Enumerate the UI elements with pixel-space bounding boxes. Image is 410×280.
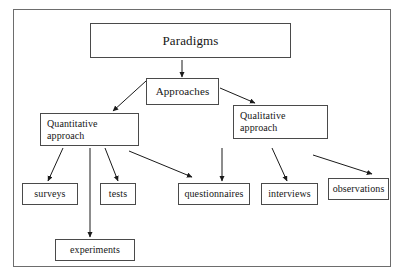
node-interviews-label: interviews: [268, 188, 311, 200]
node-qualitative-label: Qualitative approach: [240, 110, 286, 134]
node-surveys-label: surveys: [34, 188, 65, 200]
node-paradigms[interactable]: Paradigms: [90, 23, 291, 58]
node-approaches-label: Approaches: [156, 85, 210, 98]
node-tests[interactable]: tests: [100, 183, 136, 205]
node-paradigms-label: Paradigms: [162, 33, 218, 48]
node-questionnaires[interactable]: questionnaires: [178, 183, 250, 205]
node-qualitative[interactable]: Qualitative approach: [233, 105, 328, 139]
node-surveys[interactable]: surveys: [22, 183, 78, 205]
node-tests-label: tests: [109, 188, 127, 200]
node-observations-label: observations: [333, 183, 385, 195]
node-interviews[interactable]: interviews: [261, 183, 318, 205]
node-experiments[interactable]: experiments: [55, 239, 135, 261]
node-quantitative-label: Quantitative approach: [47, 118, 98, 142]
node-quantitative[interactable]: Quantitative approach: [40, 113, 139, 146]
node-experiments-label: experiments: [70, 244, 120, 256]
node-questionnaires-label: questionnaires: [184, 188, 243, 200]
diagram-canvas: ParadigmsApproachesQuantitative approach…: [0, 0, 410, 280]
node-approaches[interactable]: Approaches: [146, 78, 219, 105]
node-observations[interactable]: observations: [328, 178, 389, 200]
